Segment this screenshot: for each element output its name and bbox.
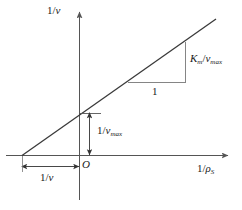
double-reciprocal-plot-figure: 1/v 1/ρS O Km/vmax 1 1/vmax 1/v (0, 0, 242, 210)
x-axis-label: 1/ρS (197, 163, 214, 174)
y-axis-label-denominator: v (56, 4, 61, 16)
slope-label: Km/vmax (190, 53, 222, 64)
slope-label-denominator-subscript: max (210, 58, 222, 66)
y-intercept-label-subscript: max (110, 130, 122, 138)
slope-run-label: 1 (152, 86, 158, 97)
x-axis-label-subscript: S (211, 168, 215, 176)
slope-label-numerator-subscript: m (197, 58, 202, 66)
x-intercept-label: 1/v (40, 172, 53, 183)
origin-label: O (82, 159, 90, 170)
plot-canvas (0, 0, 242, 210)
x-intercept-label-denominator: v (49, 171, 54, 183)
y-axis-label: 1/v (47, 5, 60, 16)
y-intercept-label: 1/vmax (97, 125, 122, 136)
